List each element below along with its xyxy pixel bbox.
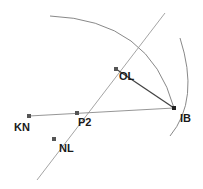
point-kn[interactable] bbox=[27, 114, 31, 118]
kn-ib-line bbox=[29, 108, 174, 116]
diagonal-line bbox=[37, 13, 165, 180]
point-nl[interactable] bbox=[52, 137, 56, 141]
label-kn: KN bbox=[14, 121, 30, 133]
point-ol[interactable] bbox=[114, 67, 118, 71]
label-ib: IB bbox=[180, 112, 191, 124]
geometry-diagram: KN P2 IB OL NL bbox=[0, 0, 203, 189]
point-ib[interactable] bbox=[172, 106, 176, 110]
label-ol: OL bbox=[119, 70, 135, 82]
label-p2: P2 bbox=[78, 116, 91, 128]
point-p2[interactable] bbox=[75, 111, 79, 115]
label-nl: NL bbox=[59, 142, 74, 154]
large-arc bbox=[50, 16, 174, 108]
